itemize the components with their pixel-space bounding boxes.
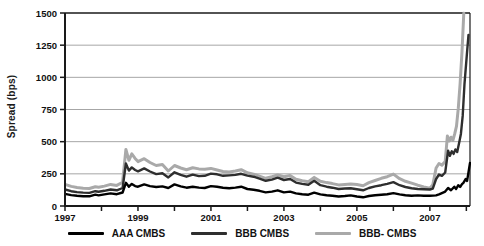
y-tick-label-1500: 1500 — [36, 8, 57, 19]
aaa-line-swatch-icon — [68, 232, 104, 235]
legend-item-aaa-cmbs: AAA CMBS — [68, 228, 166, 239]
y-tick-label-1250: 1250 — [36, 40, 57, 51]
x-tick-label-1997: 1997 — [54, 212, 75, 223]
y-axis-title: Spread (bps) — [6, 52, 17, 162]
x-tick-label-1999: 1999 — [127, 212, 148, 223]
x-tick-label-2003: 2003 — [273, 212, 294, 223]
series-lines — [65, 13, 470, 197]
y-tick-label-500: 500 — [41, 136, 57, 147]
cmbs-spread-chart-figure: Spread (bps) 025050075010001250150019971… — [0, 0, 484, 246]
plot-area: 0250500750100012501500199719992001200320… — [0, 0, 484, 246]
y-tick-label-750: 750 — [41, 104, 57, 115]
chart-legend: AAA CMBS BBB CMBS BBB- CMBS — [0, 223, 484, 243]
y-tick-label-1000: 1000 — [36, 72, 57, 83]
legend-item-bbb-cmbs: BBB CMBS — [191, 228, 289, 239]
series-line-bbb-cmbs — [65, 13, 464, 189]
bbb-line-swatch-icon — [191, 232, 227, 235]
x-tick-label-2005: 2005 — [346, 212, 368, 223]
legend-label-bbb-minus: BBB- CMBS — [359, 228, 416, 239]
bbb-minus-line-swatch-icon — [315, 232, 351, 235]
series-line-bbb-cmbs — [65, 35, 469, 193]
y-tick-label-250: 250 — [41, 168, 57, 179]
y-tick-label-0: 0 — [52, 201, 57, 212]
x-tick-label-2007: 2007 — [419, 212, 440, 223]
legend-item-bbb-minus-cmbs: BBB- CMBS — [315, 228, 416, 239]
legend-label-bbb: BBB CMBS — [235, 228, 289, 239]
x-tick-label-2001: 2001 — [200, 212, 222, 223]
legend-label-aaa: AAA CMBS — [112, 228, 166, 239]
